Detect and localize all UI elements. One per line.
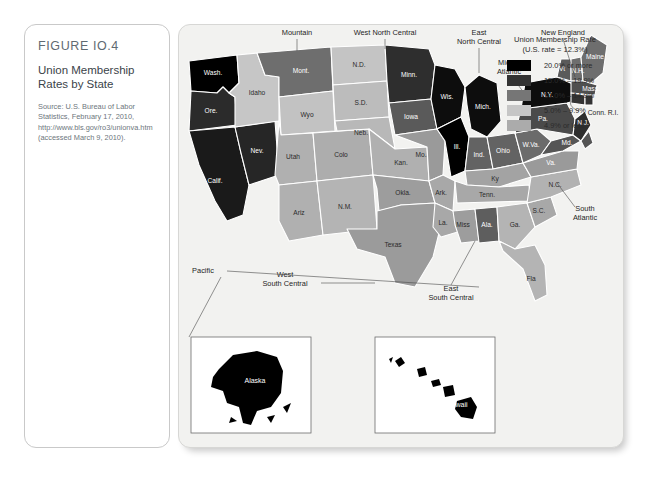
state-label-maryland: Md. bbox=[562, 139, 573, 146]
state-label-texas: Texas bbox=[384, 241, 402, 248]
state-label-kansas: Kan. bbox=[394, 159, 408, 166]
legend-title: Union Membership Rate (U.S. rate = 12.3%… bbox=[491, 35, 619, 54]
state-label-washington: Wash. bbox=[204, 69, 223, 76]
state-label-michigan: Mich. bbox=[475, 103, 491, 110]
legend-swatch-2 bbox=[507, 90, 531, 101]
state-label-virginia: Va. bbox=[546, 159, 556, 166]
legend-item-3: 5.0% – 9.9% bbox=[491, 105, 619, 116]
region-label-south-atlantic-2: Atlantic bbox=[573, 213, 598, 222]
state-label-wisconsin: Wis. bbox=[441, 93, 454, 100]
state-label-nebraska: Neb. bbox=[354, 129, 368, 136]
state-label-missouri: Mo. bbox=[416, 151, 427, 158]
leader-pacific-alaska bbox=[189, 277, 221, 337]
figure-title: Union Membership Rates by State bbox=[38, 63, 156, 91]
state-florida bbox=[499, 241, 547, 301]
figure-root: FIGURE IO.4 Union Membership Rates by St… bbox=[0, 0, 648, 479]
legend-title-line2: (U.S. rate = 12.3%) bbox=[491, 45, 619, 55]
state-label-nevada: Nev. bbox=[250, 147, 263, 154]
region-label-west-north-central: West North Central bbox=[354, 28, 417, 37]
state-label-tennessee: Tenn. bbox=[479, 191, 495, 198]
legend-label-0: 20.0% or more bbox=[544, 61, 592, 70]
legend-label-2: 10.0% – 14.9% bbox=[544, 91, 594, 100]
legend-swatch-4 bbox=[507, 120, 531, 131]
legend-item-1: 15.0% – 19.9% bbox=[491, 75, 619, 86]
inset-label-hawaii: Hawaii bbox=[446, 401, 467, 408]
state-label-newmexico: N.M. bbox=[338, 203, 352, 210]
state-label-montana: Mont. bbox=[293, 67, 310, 74]
state-label-iowa: Iowa bbox=[404, 113, 418, 120]
state-label-westvirginia: W.Va. bbox=[522, 141, 539, 148]
state-label-illinois: Ill. bbox=[454, 143, 461, 150]
legend-item-2: 10.0% – 14.9% bbox=[491, 90, 619, 101]
state-label-colorado: Colo bbox=[334, 151, 348, 158]
state-label-wyoming: Wyo bbox=[300, 111, 313, 119]
state-label-louisiana: La. bbox=[438, 219, 447, 226]
figure-number: FIGURE IO.4 bbox=[38, 39, 156, 53]
state-label-idaho: Idaho bbox=[249, 89, 266, 96]
region-label-south-atlantic-1: South bbox=[575, 204, 594, 213]
legend-title-line1: Union Membership Rate bbox=[491, 35, 619, 45]
legend-swatch-0 bbox=[507, 60, 531, 71]
state-label-georgia: Ga. bbox=[510, 221, 521, 228]
legend-item-0: 20.0% or more bbox=[491, 60, 619, 71]
legend-swatch-1 bbox=[507, 75, 531, 86]
figure-source: Source: U.S. Bureau of Labor Statistics,… bbox=[38, 102, 156, 144]
state-label-southcarolina: S.C. bbox=[533, 207, 546, 214]
legend-label-4: 4.9% or less bbox=[544, 121, 585, 130]
region-label-east-north-central-1: East bbox=[472, 28, 487, 37]
legend-swatch-3 bbox=[507, 105, 531, 116]
state-label-southdakota: S.D. bbox=[355, 99, 368, 106]
region-label-pacific: Pacific bbox=[192, 266, 214, 275]
map-panel: .st{stroke:#ffffff;stroke-width:1.1;stro… bbox=[178, 24, 624, 448]
state-label-northdakota: N.D. bbox=[352, 61, 365, 68]
state-label-indiana: Ind. bbox=[474, 151, 485, 158]
state-label-ohio: Ohio bbox=[496, 147, 510, 154]
state-label-oklahoma: Okla. bbox=[395, 189, 411, 196]
state-label-mississippi: Miss bbox=[456, 221, 470, 228]
region-label-west-south-central-2: South Central bbox=[262, 279, 308, 288]
state-label-oregon: Ore. bbox=[205, 107, 218, 114]
legend-label-3: 5.0% – 9.9% bbox=[544, 106, 586, 115]
leader-east-south-central bbox=[451, 241, 475, 285]
state-label-florida: Fla bbox=[526, 275, 535, 282]
state-label-minnesota: Minn. bbox=[401, 71, 417, 78]
region-label-east-south-central-2: South Central bbox=[428, 293, 474, 302]
legend-label-1: 15.0% – 19.9% bbox=[544, 76, 594, 85]
legend-item-4: 4.9% or less bbox=[491, 120, 619, 131]
state-label-arizona: Ariz bbox=[293, 209, 304, 216]
state-label-california: Calif. bbox=[207, 177, 222, 184]
state-label-kentucky: Ky bbox=[491, 175, 499, 183]
map-legend: Union Membership Rate (U.S. rate = 12.3%… bbox=[491, 35, 619, 135]
state-label-utah: Utah bbox=[286, 153, 300, 160]
inset-label-alaska: Alaska bbox=[244, 377, 265, 384]
figure-caption-card: FIGURE IO.4 Union Membership Rates by St… bbox=[24, 24, 170, 448]
region-label-mountain: Mountain bbox=[282, 28, 312, 37]
state-label-alabama: Ala. bbox=[481, 221, 493, 228]
state-label-arkansas: Ark. bbox=[435, 189, 447, 196]
